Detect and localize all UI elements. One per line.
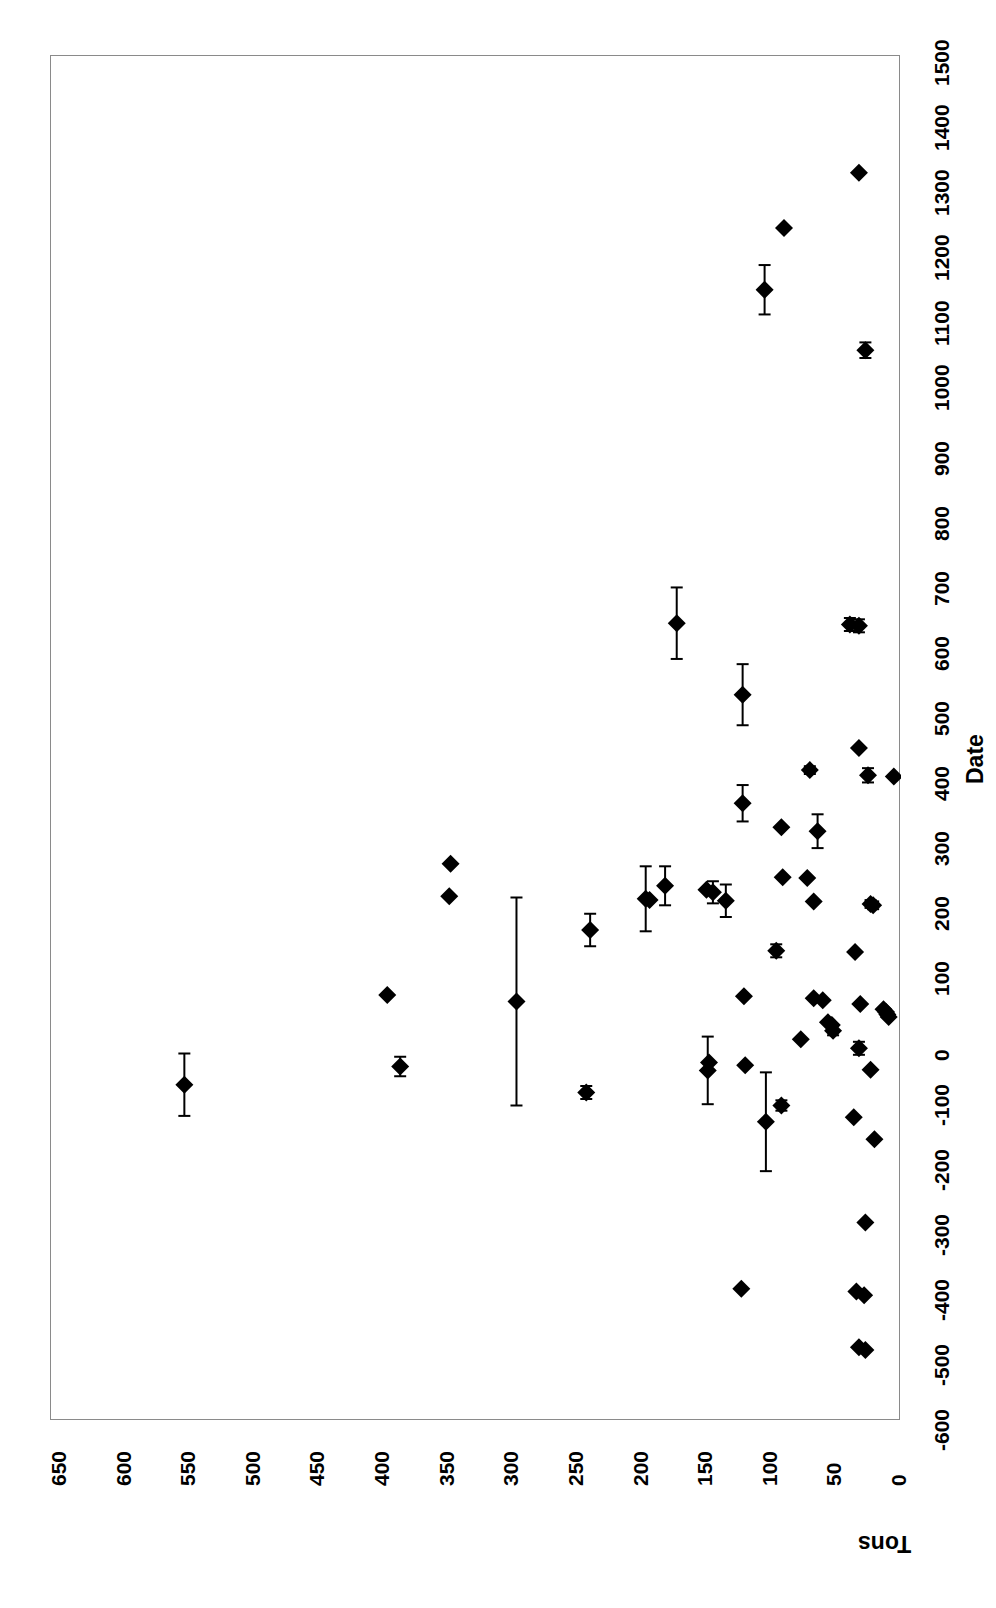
data-point-marker — [846, 943, 864, 961]
tons-tick-label: 350 — [435, 1451, 459, 1486]
data-point-marker — [736, 1056, 754, 1074]
date-tick-label: 700 — [930, 571, 954, 606]
tons-tick-label: 50 — [822, 1463, 846, 1486]
data-point-marker — [378, 986, 396, 1004]
data-point-marker — [735, 987, 753, 1005]
date-tick-label: 1500 — [930, 39, 954, 86]
data-point-marker — [772, 1097, 790, 1115]
date-tick-label: 400 — [930, 766, 954, 801]
data-point-marker — [809, 822, 827, 840]
date-tick-label: 1000 — [930, 364, 954, 411]
data-point-marker — [391, 1058, 409, 1076]
data-point-marker — [850, 1039, 868, 1057]
tons-tick-label: 150 — [693, 1451, 717, 1486]
data-point-marker — [581, 921, 599, 939]
data-point-marker — [507, 993, 525, 1011]
date-tick-label: 1100 — [930, 300, 954, 346]
date-tick-label: 800 — [930, 506, 954, 541]
data-point-marker — [775, 219, 793, 237]
date-tick-label: -400 — [930, 1279, 954, 1321]
data-point-marker — [734, 686, 752, 704]
data-point-marker — [440, 887, 458, 905]
data-point-marker — [851, 995, 869, 1013]
date-tick-label: 200 — [930, 896, 954, 931]
data-point-marker — [757, 1113, 775, 1131]
tons-tick-label: 0 — [887, 1474, 911, 1486]
data-point-marker — [577, 1084, 595, 1102]
tons-tick-label: 600 — [112, 1451, 136, 1486]
data-point-marker — [850, 739, 868, 757]
data-point-marker — [845, 1108, 863, 1126]
data-point-marker — [732, 1280, 750, 1298]
data-point-marker — [767, 942, 785, 960]
date-tick-label: 1400 — [930, 104, 954, 151]
data-point-marker — [756, 281, 774, 299]
chart-canvas: -600-500-400-300-200-1000100200300400500… — [0, 0, 996, 1608]
data-point-marker — [862, 1061, 880, 1079]
date-tick-label: -100 — [930, 1084, 954, 1126]
plot-area — [50, 55, 900, 1420]
tons-axis-title: Tons — [858, 1530, 911, 1557]
date-tick-label: 1200 — [930, 234, 954, 281]
data-point-marker — [850, 164, 868, 182]
scatter-plot-svg — [51, 56, 901, 1421]
data-point-marker — [859, 766, 877, 784]
date-tick-label: 300 — [930, 831, 954, 866]
date-tick-label: 900 — [930, 441, 954, 476]
data-point-marker — [772, 818, 790, 836]
tons-tick-label: 450 — [305, 1451, 329, 1486]
tons-tick-label: 100 — [758, 1451, 782, 1486]
date-tick-label: -300 — [930, 1214, 954, 1256]
data-point-marker — [798, 869, 816, 887]
data-point-marker — [175, 1076, 193, 1094]
data-point-marker — [801, 761, 819, 779]
tons-tick-label: 500 — [241, 1451, 265, 1486]
date-tick-label: 500 — [930, 701, 954, 736]
date-tick-label: -200 — [930, 1149, 954, 1191]
date-tick-label: 0 — [930, 1049, 954, 1061]
date-tick-label: 100 — [930, 961, 954, 996]
data-point-marker — [774, 868, 792, 886]
data-point-marker — [885, 768, 901, 786]
tons-tick-label: 400 — [370, 1451, 394, 1486]
date-tick-label: 600 — [930, 636, 954, 671]
data-point-marker — [668, 614, 686, 632]
data-point-marker — [856, 341, 874, 359]
data-point-marker — [805, 892, 823, 910]
data-point-marker — [442, 855, 460, 873]
date-tick-label: 1300 — [930, 169, 954, 216]
data-point-marker — [856, 1214, 874, 1232]
tons-tick-label: 200 — [629, 1451, 653, 1486]
tons-tick-label: 650 — [47, 1451, 71, 1486]
date-tick-label: -600 — [930, 1409, 954, 1451]
tons-tick-label: 300 — [499, 1451, 523, 1486]
tons-tick-label: 250 — [564, 1451, 588, 1486]
data-point-marker — [656, 877, 674, 895]
data-point-marker — [865, 1130, 883, 1148]
date-axis-title: Date — [962, 734, 989, 784]
date-tick-label: -500 — [930, 1344, 954, 1386]
data-point-marker — [734, 794, 752, 812]
data-point-marker — [792, 1030, 810, 1048]
tons-tick-label: 550 — [176, 1451, 200, 1486]
